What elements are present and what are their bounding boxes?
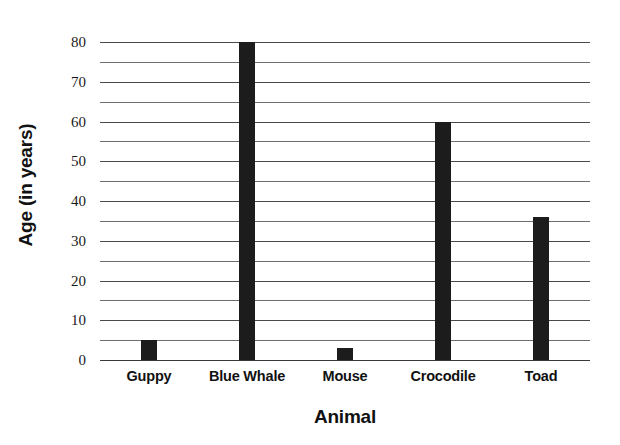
y-axis-tick-label: 20 <box>71 272 86 289</box>
y-axis-tick-label: 10 <box>71 312 86 329</box>
bar <box>337 348 353 360</box>
x-axis-tick-label: Blue Whale <box>209 368 285 384</box>
bar <box>435 122 451 361</box>
bar <box>533 217 549 360</box>
y-axis-tick-labels: 01020304050607080 <box>52 0 92 445</box>
y-axis-tick-label: 60 <box>71 113 86 130</box>
bar <box>141 340 157 360</box>
y-axis-tick-label: 80 <box>71 34 86 51</box>
x-axis-tick-label: Mouse <box>323 368 368 384</box>
y-axis-tick-label: 70 <box>71 73 86 90</box>
x-axis-tick-label: Toad <box>525 368 558 384</box>
plot-area <box>100 42 590 360</box>
y-axis-tick-label: 40 <box>71 193 86 210</box>
y-axis-tick-label: 0 <box>79 352 87 369</box>
y-axis-tick-label: 30 <box>71 232 86 249</box>
x-axis-tick-label: Guppy <box>127 368 172 384</box>
x-axis-tick-label: Crocodile <box>410 368 475 384</box>
y-axis-title-label: Age (in years) <box>15 124 37 247</box>
bar-chart-figure: Age (in years) 01020304050607080 GuppyBl… <box>0 0 620 445</box>
gridline <box>100 360 590 361</box>
y-axis-tick-label: 50 <box>71 153 86 170</box>
x-axis-tick-labels: GuppyBlue WhaleMouseCrocodileToad <box>100 368 590 394</box>
y-axis-title: Age (in years) <box>0 0 52 370</box>
bar <box>239 42 255 360</box>
x-axis-title: Animal <box>100 406 590 428</box>
bars-layer <box>100 42 590 360</box>
